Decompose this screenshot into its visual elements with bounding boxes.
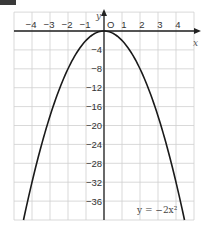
y-tick-label: −28: [86, 158, 102, 169]
equation-label: y = −2x²: [136, 205, 178, 215]
y-tick-label: −24: [86, 139, 102, 150]
x-tick-label: −1: [80, 19, 91, 30]
y-tick-label: −32: [86, 177, 102, 188]
y-axis-label: y: [95, 11, 102, 21]
origin-label: O: [107, 19, 114, 30]
y-tick-label: −16: [86, 101, 102, 112]
axes: [14, 9, 201, 220]
x-tick-label: 1: [121, 19, 126, 30]
x-tick-label: −2: [62, 19, 73, 30]
x-tick-label: −3: [44, 19, 55, 30]
y-tick-label: −12: [86, 82, 102, 93]
parabola-chart: −4−3−2−11234−4−8−12−16−20−24−28−32−36 x …: [0, 0, 205, 231]
y-tick-label: −36: [86, 196, 102, 207]
x-tick-label: 4: [175, 19, 180, 30]
x-tick-label: 3: [157, 19, 162, 30]
x-axis-label: x: [193, 38, 198, 48]
y-tick-label: −8: [91, 63, 102, 74]
x-tick-label: 2: [139, 19, 144, 30]
y-tick-label: −20: [86, 120, 102, 131]
x-tick-label: −4: [26, 19, 37, 30]
y-tick-label: −4: [91, 44, 102, 55]
x-axis-arrow-icon: [194, 28, 201, 34]
